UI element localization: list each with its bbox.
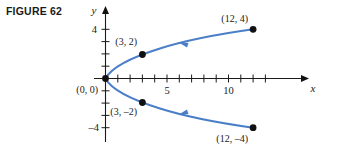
y-axis-label: y xyxy=(91,4,97,16)
point-label-12-4: (12, 4) xyxy=(221,13,248,25)
point-label-3-2: (3, 2) xyxy=(115,36,137,48)
point-label-3-neg2: (3, –2) xyxy=(110,106,137,118)
point-label-12-neg4: (12, –4) xyxy=(216,133,248,145)
direction-arrow-lower xyxy=(178,109,189,115)
point-label-origin: (0, 0) xyxy=(76,84,98,96)
point-dot-origin xyxy=(102,75,109,82)
x-axis-arrowhead xyxy=(301,75,309,82)
figure-container: FIGURE 62 xyxy=(0,0,337,147)
point-dot-3-2 xyxy=(139,51,146,58)
point-dot-12-neg4 xyxy=(250,124,257,131)
y-tick-label-neg4: –4 xyxy=(88,122,100,133)
axes-group: y x 5 10 4 –4 xyxy=(88,4,316,142)
x-tick-label-10: 10 xyxy=(223,85,234,96)
direction-arrow-upper xyxy=(178,42,189,48)
parabola-plot: y x 5 10 4 –4 (0, 0) (3, 2) xyxy=(0,0,337,147)
y-tick-label-4: 4 xyxy=(92,24,98,35)
point-dot-12-4 xyxy=(250,26,257,33)
point-dot-3-neg2 xyxy=(139,99,146,106)
y-axis-arrowhead xyxy=(102,6,109,14)
x-axis-label: x xyxy=(310,82,316,94)
x-tick-label-5: 5 xyxy=(164,85,169,96)
